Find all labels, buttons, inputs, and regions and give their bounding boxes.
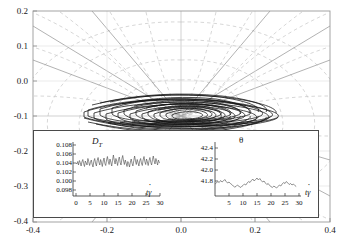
inset-theta-x-tick: 5 [223, 199, 235, 207]
x-tick-label: 0.2 [241, 225, 269, 235]
inset-dt-x-axis-label-gammadot: γ [148, 188, 151, 197]
y-tick-label: -0.1 [0, 111, 28, 121]
x-tick-label: 0.4 [316, 225, 344, 235]
inset-theta-y-tick: 42.4 [186, 144, 213, 152]
y-tick-label: -0.2 [0, 146, 28, 156]
x-tick-label: -0.2 [93, 225, 121, 235]
inset-dt-x-tick: 10 [97, 199, 111, 207]
inset-dt-y-tick: 0.098 [40, 186, 72, 194]
inset-dt-title: DT [92, 136, 102, 148]
inset-theta-x-tick: 30 [292, 199, 306, 207]
y-tick-label: 0.2 [0, 6, 28, 16]
inset-dt-x-tick: 5 [84, 199, 96, 207]
inset-dt-title-sub: T [99, 141, 103, 148]
inset-dt-x-tick: 0 [70, 199, 82, 207]
y-tick-label: -0.3 [0, 181, 28, 191]
inset-theta-x-axis-label-gammadot: γ [307, 188, 310, 197]
figure-root: 0.2 0.1 0.0 -0.1 -0.2 -0.3 -0.4 -0.4 -0.… [0, 0, 348, 242]
x-tick-label: 0.0 [167, 225, 195, 235]
y-tick-label: 0.0 [0, 76, 28, 86]
inset-theta-title: θ [239, 135, 243, 145]
inset-theta-axes [215, 142, 301, 196]
inset-dt-x-axis-label: tγ [146, 188, 151, 197]
inset-dt-y-tick: 0.106 [40, 150, 72, 158]
inset-theta-y-tick: 41.8 [186, 177, 213, 185]
inset-theta-x-tick: 20 [264, 199, 278, 207]
y-tick-label: 0.1 [0, 41, 28, 51]
inset-dt-x-tick: 15 [111, 199, 125, 207]
inset-dt-x-tick: 30 [153, 199, 167, 207]
inset-theta-y-tick: 42.2 [186, 155, 213, 163]
inset-dt-y-tick: 0.104 [40, 159, 72, 167]
inset-theta-series [215, 178, 296, 188]
inset-theta-ticks [215, 148, 299, 196]
inset-dt-x-tick: 25 [139, 199, 153, 207]
inset-dt-y-tick: 0.102 [40, 168, 72, 176]
inset-dt-series [76, 155, 160, 167]
inset-dt-x-tick: 20 [125, 199, 139, 207]
inset-dt-y-tick: 0.100 [40, 177, 72, 185]
inset-theta-y-tick: 42.0 [186, 166, 213, 174]
inset-theta-x-tick: 15 [250, 199, 264, 207]
inset-theta-x-tick: 25 [278, 199, 292, 207]
inset-theta-x-axis-label: tγ [305, 188, 310, 197]
inset-dt-y-tick: 0.108 [40, 141, 72, 149]
x-tick-label: -0.4 [19, 225, 47, 235]
inset-theta-x-tick: 10 [236, 199, 250, 207]
